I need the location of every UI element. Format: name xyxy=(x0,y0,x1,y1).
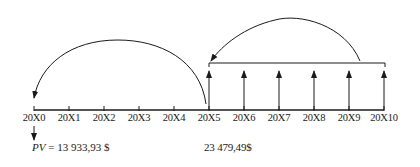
pv-value: = 13 933,93 $ xyxy=(45,141,109,153)
tick-label-20x6: 20X6 xyxy=(233,112,256,123)
intermediate-value-label: 23 479,49$ xyxy=(204,141,252,153)
cash-flow-arrows xyxy=(209,71,384,110)
tick-label-20x1: 20X1 xyxy=(58,112,81,123)
discount-arc-small xyxy=(211,18,360,61)
tick-label-20x10: 20X10 xyxy=(370,112,398,123)
tick-label-20x3: 20X3 xyxy=(128,112,151,123)
pv-symbol: PV xyxy=(32,141,45,153)
tick-label-20x2: 20X2 xyxy=(93,112,116,123)
tick-label-20x7: 20X7 xyxy=(268,112,291,123)
tick-label-20x9: 20X9 xyxy=(338,112,361,123)
tick-label-20x0: 20X0 xyxy=(23,112,46,123)
tick-label-20x5: 20X5 xyxy=(198,112,221,123)
tick-label-20x8: 20X8 xyxy=(303,112,326,123)
discount-arc-large xyxy=(34,40,206,104)
annuity-bracket xyxy=(209,63,385,67)
present-value-label: PV = 13 933,93 $ xyxy=(32,141,109,153)
tick-label-20x4: 20X4 xyxy=(163,112,186,123)
